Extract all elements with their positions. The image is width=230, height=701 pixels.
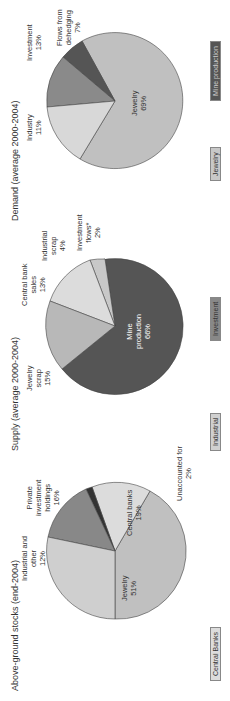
label-stocks-unaccounted: Unaccounted for 2% [175, 446, 193, 501]
label-stocks-industrial: Industrial and other 12% [20, 536, 47, 581]
label-demand-industry: Industry 11% [25, 114, 43, 141]
label-supply-industrial: Industrial scrap 4% [40, 231, 67, 261]
legend-investment: Investment [210, 297, 221, 341]
label-supply-investment: Investment flows* 2% [75, 214, 102, 251]
figure: Above-ground stocks (end-2004) Supply (a… [0, 0, 230, 701]
label-supply-mine: Mine production 66% [125, 314, 152, 349]
label-stocks-central: Central banks 19% [125, 490, 143, 536]
label-supply-cb: Central bank sales 13% [20, 263, 47, 306]
label-demand-jewelry: Jewelry 69% [130, 91, 148, 116]
label-demand-dehedging: Flows from dehedging 7% [55, 9, 82, 46]
legend-mine-production: Mine production [210, 41, 221, 101]
label-stocks-private: Private investment holdings 16% [25, 480, 61, 516]
label-stocks-jewelry: Jewelry 51% [120, 576, 138, 601]
legend-central-banks: Central Banks [210, 627, 221, 681]
legend-industrial: Industrial [210, 413, 221, 451]
legend-jewelry: Jewelry [210, 147, 221, 181]
label-demand-investment: Investment 13% [25, 24, 43, 61]
stocks-pie [0, 0, 230, 701]
label-supply-scrap: Jewelry scrap 15% [25, 366, 52, 391]
